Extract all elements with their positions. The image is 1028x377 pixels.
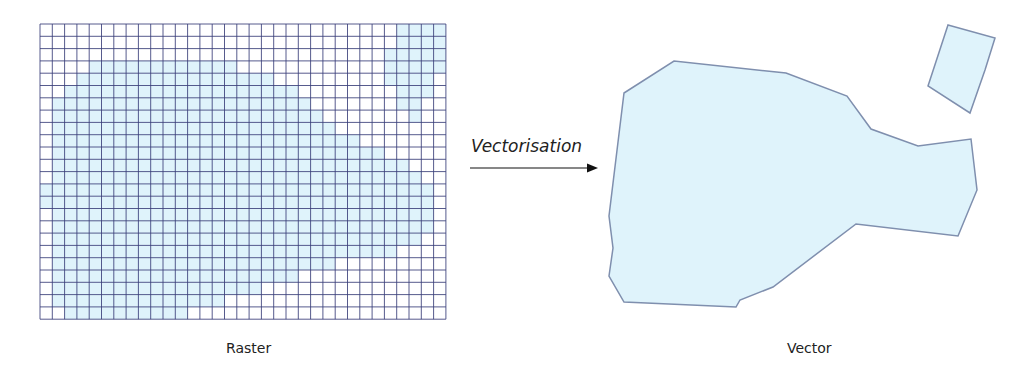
raster-caption: Raster	[226, 340, 271, 356]
vector-polygons	[0, 0, 1028, 377]
vector-polygon-small	[928, 25, 995, 113]
vector-caption: Vector	[787, 340, 832, 356]
vectorisation-label: Vectorisation	[471, 136, 582, 156]
vector-polygon-main	[609, 61, 977, 307]
arrow-icon	[470, 160, 600, 176]
